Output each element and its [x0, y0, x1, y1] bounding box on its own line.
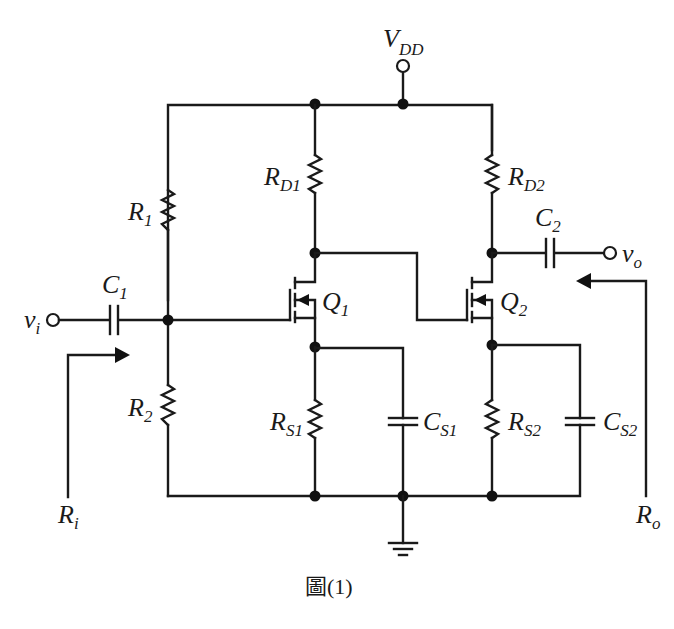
label-vi: vi [24, 305, 41, 338]
label-ri: Ri [57, 500, 79, 533]
label-rs1: RS1 [269, 407, 303, 440]
capacitor-c2 [492, 239, 604, 267]
label-rd1: RD1 [263, 162, 301, 195]
resistor-rs2 [486, 345, 498, 496]
label-c1: C1 [102, 270, 128, 303]
label-q1: Q1 [322, 287, 349, 320]
capacitor-c1 [110, 306, 290, 334]
label-q2: Q2 [500, 287, 528, 320]
vdd-terminal [397, 60, 409, 103]
resistor-rs1 [309, 347, 321, 496]
resistor-rd2 [486, 105, 498, 259]
circuit-diagram: VDD R1 R2 RD1 RD2 RS1 RS2 C1 C2 CS1 CS2 … [0, 0, 674, 629]
mosfet-q2 [467, 253, 498, 351]
label-c2: C2 [535, 203, 561, 236]
label-vdd: VDD [383, 24, 424, 59]
schematic: VDD R1 R2 RD1 RD2 RS1 RS2 C1 C2 CS1 CS2 … [0, 0, 674, 629]
label-rd2: RD2 [507, 162, 545, 195]
resistor-r2 [162, 230, 174, 496]
label-cs2: CS2 [603, 407, 638, 440]
figure-caption: 圖(1) [305, 574, 353, 599]
input-terminal-vi [47, 314, 108, 326]
label-vo: vo [622, 239, 642, 272]
label-ro: Ro [635, 500, 660, 533]
vdd-rail [168, 99, 492, 301]
resistor-rd1 [309, 105, 321, 259]
ri-arrow [68, 347, 130, 497]
ro-arrow [576, 273, 646, 496]
label-cs1: CS1 [423, 407, 457, 440]
capacitor-cs1 [315, 348, 417, 496]
label-r1: R1 [127, 197, 152, 230]
output-terminal-vo [604, 247, 616, 259]
ground-icon [389, 496, 417, 555]
label-r2: R2 [127, 393, 153, 426]
label-rs2: RS2 [507, 407, 541, 440]
mosfet-q1 [290, 253, 321, 353]
